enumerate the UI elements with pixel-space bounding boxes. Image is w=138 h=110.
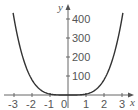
x-tick-label: -2 (26, 98, 36, 110)
chart-canvas: -3-2-10123 100200300400 x y (0, 0, 138, 110)
y-axis-label: y (57, 1, 63, 13)
x-tick-label: 2 (101, 98, 107, 110)
x-tick-label: 1 (83, 98, 89, 110)
x-axis-label: x (129, 96, 135, 108)
y-tick-label: 300 (72, 32, 90, 44)
x-tick-label: -3 (8, 98, 18, 110)
y-tick-label: 100 (72, 70, 90, 82)
y-tick-label: 200 (72, 51, 90, 63)
y-tick-label: 400 (72, 13, 90, 25)
y-axis-arrow-icon (66, 4, 71, 10)
x-tick-label: -1 (44, 98, 54, 110)
x-tick-label: 0 (61, 98, 67, 110)
y-axis: 100200300400 (66, 4, 91, 108)
x-tick-label: 3 (119, 98, 125, 110)
